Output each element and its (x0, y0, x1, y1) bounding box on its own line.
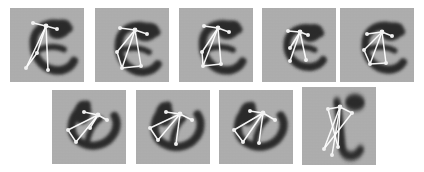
image-patch-5 (340, 8, 414, 82)
image-patch-8 (219, 90, 293, 164)
figure-image-grid (0, 0, 424, 172)
image-patch-9 (302, 87, 376, 165)
skeleton-overlay (322, 105, 354, 157)
glyph-ink (226, 96, 289, 154)
image-patch-3 (179, 8, 253, 82)
image-patch-6 (52, 90, 126, 164)
glyph-ink (143, 96, 206, 154)
image-patch-7 (136, 90, 210, 164)
image-patch-1 (10, 8, 84, 82)
image-patch-2 (95, 8, 169, 82)
image-patch-4 (262, 8, 336, 82)
